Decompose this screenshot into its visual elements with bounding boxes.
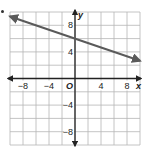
origin-label: O xyxy=(66,81,73,91)
x-tick-label: −4 xyxy=(44,81,54,91)
x-tick-label: −8 xyxy=(18,81,28,91)
x-tick-label: 4 xyxy=(98,81,103,91)
y-axis-label: y xyxy=(77,10,84,20)
y-tick-label: −4 xyxy=(63,100,73,110)
y-tick-label: 4 xyxy=(68,47,73,57)
x-axis-label: x xyxy=(135,81,142,91)
coordinate-plane: −8−44884−4−8Oxy xyxy=(0,0,145,148)
axes xyxy=(8,10,141,146)
x-tick-label: 8 xyxy=(124,81,129,91)
y-tick-label: 8 xyxy=(68,20,73,30)
y-tick-label: −8 xyxy=(63,127,73,137)
